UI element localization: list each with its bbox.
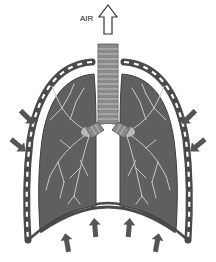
lung-illustration <box>0 0 216 262</box>
diaphragm-push-arrows <box>59 218 164 253</box>
lung-exhalation-diagram: AIR <box>0 0 216 262</box>
arrow-icon <box>88 218 102 238</box>
bronchi <box>86 122 130 138</box>
right-lung <box>120 74 177 230</box>
arrow-icon <box>59 232 74 253</box>
arrow-icon <box>122 218 136 238</box>
arrow-icon <box>150 232 165 253</box>
air-outflow-arrow-icon <box>99 5 117 34</box>
trachea <box>98 44 118 124</box>
left-lung <box>39 74 96 230</box>
air-label: AIR <box>80 15 93 23</box>
